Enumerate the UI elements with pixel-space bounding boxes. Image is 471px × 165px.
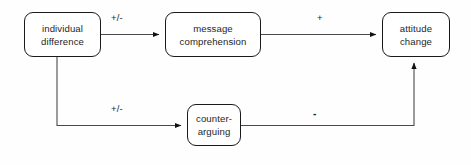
edge-label-individual-difference-to-message-comprehension: +/- [111,13,123,23]
node-individual-difference-line-1: individual [42,22,83,35]
edge-individual-difference-to-counter-arguing [57,57,181,126]
edge-label-individual-difference-to-counter-arguing: +/- [111,104,123,114]
node-message-comprehension-line-1: message [193,22,233,35]
node-message-comprehension[interactable]: message comprehension [165,12,261,57]
node-counter-arguing-line-2: arguing [198,125,231,138]
node-counter-arguing[interactable]: counter- arguing [187,104,241,146]
node-individual-difference-line-2: difference [41,35,84,48]
node-message-comprehension-line-2: comprehension [180,35,247,48]
edge-label-counter-arguing-to-attitude-change: - [313,109,317,119]
node-attitude-change[interactable]: attitude change [382,12,450,57]
node-counter-arguing-line-1: counter- [196,112,232,125]
edge-counter-arguing-to-attitude-change [241,63,414,126]
node-attitude-change-line-2: change [400,35,432,48]
edge-label-message-comprehension-to-attitude-change: + [317,13,323,23]
diagram-canvas: individual difference message comprehens… [0,0,471,165]
node-individual-difference[interactable]: individual difference [24,12,101,57]
node-attitude-change-line-1: attitude [400,22,432,35]
